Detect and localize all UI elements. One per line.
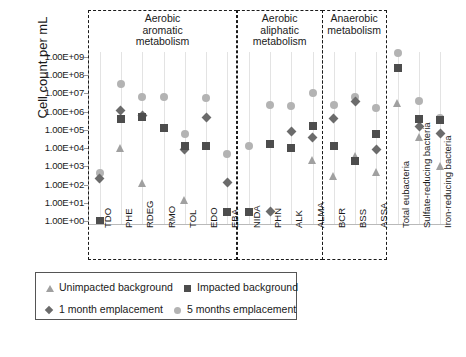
scatter-chart: Cell count per mL 1.00E+091.00E+081.00E+… [0,0,466,357]
group-title-line: Anaerobic [325,13,384,25]
y-tick-label: 1.00E+06 [45,107,84,116]
group-title-aerobic-aliphatic: Aerobicaliphaticmetabolism [240,13,320,48]
y-tick-mark [84,185,88,186]
data-point-square [436,116,444,124]
y-tick-mark [84,166,88,167]
y-tick-mark [84,57,88,58]
group-title-anaerobic: Anaerobicmetabolism [325,13,384,36]
group-title-line: metabolism [91,36,235,48]
legend-label: Impacted background [197,281,298,293]
y-tick-mark [84,221,88,222]
x-tick-label: Total eubacteria [401,161,410,228]
group-box-aerobic-aromatic [88,10,238,260]
legend-marker-circle [174,307,181,314]
y-tick-label: 1.00E+03 [45,161,84,170]
legend-marker-square [184,285,191,292]
group-box-aerobic-aliphatic [237,10,323,260]
y-tick-label: 1.00E+08 [45,70,84,79]
group-title-line: Aerobic [240,13,320,25]
y-tick-mark [84,148,88,149]
data-point-triangle [393,99,401,107]
group-title-line: metabolism [240,36,320,48]
y-tick-mark [84,93,88,94]
y-tick-mark [84,112,88,113]
legend-marker-diamond [45,306,53,314]
x-tick-label: Sulfate-reducing bacteria [422,122,431,228]
y-tick-mark [84,203,88,204]
legend-marker-triangle [46,285,54,292]
y-tick-label: 1.00E+00 [45,216,84,225]
group-title-aerobic-aromatic: Aerobicaromaticmetabolism [91,13,235,48]
y-tick-label: 1.00E+02 [45,180,84,189]
y-tick-label: 1.00E+01 [45,198,84,207]
category-gridline [398,52,399,224]
data-point-square [394,64,402,72]
chart-legend: Unimpacted backgroundImpacted background… [35,272,297,320]
legend-label: Unimpacted background [59,281,173,293]
y-tick-label: 1.00E+07 [45,88,84,97]
group-title-line: metabolism [325,25,384,37]
y-tick-label: 1.00E+05 [45,125,84,134]
data-point-circle [394,49,402,57]
data-point-circle [415,97,423,105]
group-box-anaerobic [322,10,387,260]
y-tick-mark [84,130,88,131]
x-tick-label: Iron-reducing bacteria [443,136,452,228]
y-tick-mark [84,75,88,76]
legend-label: 5 months emplacement [187,303,296,315]
group-title-line: Aerobic [91,13,235,25]
y-tick-label: 1.00E+09 [45,52,84,61]
y-tick-label: 1.00E+04 [45,143,84,152]
legend-label: 1 month emplacement [59,303,163,315]
